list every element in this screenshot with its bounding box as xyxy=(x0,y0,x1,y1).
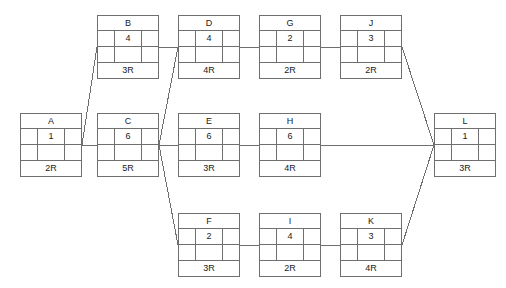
node-duration-row: 3R xyxy=(98,63,158,78)
node-blank-row xyxy=(98,145,158,161)
node-value-cell-center: 1 xyxy=(37,129,65,144)
node-duration-label: 4R xyxy=(203,66,215,75)
node-g[interactable]: G22R xyxy=(259,15,321,79)
node-value-label: 4 xyxy=(206,34,211,43)
node-blank-cell-right xyxy=(223,47,239,62)
node-blank-cell-right xyxy=(385,47,401,62)
node-value-cell-left xyxy=(260,229,276,244)
node-blank-cell-left xyxy=(179,47,195,62)
node-blank-cell-right xyxy=(304,47,320,62)
node-value-label: 6 xyxy=(287,132,292,141)
node-value-label: 6 xyxy=(206,132,211,141)
node-value-cell-right xyxy=(385,31,401,46)
node-blank-cell-right xyxy=(304,145,320,160)
node-blank-cell-left xyxy=(98,47,114,62)
node-a[interactable]: A12R xyxy=(20,113,82,177)
node-value-label: 3 xyxy=(368,232,373,241)
node-h[interactable]: H64R xyxy=(259,113,321,177)
node-b[interactable]: B43R xyxy=(97,15,159,79)
node-name-label: D xyxy=(206,19,213,28)
node-blank-cell-right xyxy=(304,245,320,260)
node-value-cell-left xyxy=(179,229,195,244)
node-name-row: C xyxy=(98,114,158,129)
node-value-label: 6 xyxy=(125,132,130,141)
node-duration-label: 3R xyxy=(122,66,134,75)
node-name-label: F xyxy=(206,217,212,226)
node-value-row: 3 xyxy=(341,229,401,245)
node-value-cell-left xyxy=(435,129,451,144)
node-name-label: I xyxy=(289,217,292,226)
node-duration-label: 4R xyxy=(365,264,377,273)
node-blank-row xyxy=(435,145,495,161)
node-blank-cell-left xyxy=(98,145,114,160)
node-j[interactable]: J32R xyxy=(340,15,402,79)
node-value-cell-left xyxy=(260,31,276,46)
node-value-label: 2 xyxy=(287,34,292,43)
node-duration-row: 5R xyxy=(98,161,158,176)
node-value-cell-center: 1 xyxy=(451,129,479,144)
node-name-row: J xyxy=(341,16,401,31)
node-value-cell-left xyxy=(21,129,37,144)
node-l[interactable]: L13R xyxy=(434,113,496,177)
node-duration-label: 3R xyxy=(459,164,471,173)
node-duration-label: 3R xyxy=(203,264,215,273)
node-blank-row xyxy=(341,245,401,261)
node-duration-label: 3R xyxy=(203,164,215,173)
node-c[interactable]: C65R xyxy=(97,113,159,177)
node-blank-row xyxy=(341,47,401,63)
node-blank-row xyxy=(260,145,320,161)
node-blank-cell-left xyxy=(260,245,276,260)
node-name-row: G xyxy=(260,16,320,31)
node-blank-cell-right xyxy=(223,145,239,160)
node-blank-cell-center xyxy=(276,245,304,260)
node-value-label: 3 xyxy=(368,34,373,43)
node-name-row: K xyxy=(341,214,401,229)
node-value-cell-left xyxy=(98,129,114,144)
node-value-cell-center: 6 xyxy=(276,129,304,144)
edge-c-to-f xyxy=(159,145,178,245)
node-name-row: F xyxy=(179,214,239,229)
node-blank-row xyxy=(98,47,158,63)
node-value-cell-right xyxy=(142,31,158,46)
node-duration-label: 2R xyxy=(284,264,296,273)
node-value-label: 4 xyxy=(287,232,292,241)
node-name-row: L xyxy=(435,114,495,129)
node-name-row: I xyxy=(260,214,320,229)
node-value-cell-right xyxy=(223,129,239,144)
node-blank-cell-left xyxy=(435,145,451,160)
node-name-label: H xyxy=(287,117,294,126)
node-value-row: 3 xyxy=(341,31,401,47)
node-value-label: 1 xyxy=(48,132,53,141)
node-duration-row: 2R xyxy=(260,261,320,276)
node-value-cell-center: 4 xyxy=(276,229,304,244)
node-duration-row: 4R xyxy=(341,261,401,276)
node-value-row: 6 xyxy=(260,129,320,145)
node-blank-cell-left xyxy=(341,245,357,260)
node-duration-row: 2R xyxy=(260,63,320,78)
node-blank-row xyxy=(179,245,239,261)
node-value-row: 1 xyxy=(435,129,495,145)
node-name-row: D xyxy=(179,16,239,31)
node-duration-label: 2R xyxy=(365,66,377,75)
node-f[interactable]: F23R xyxy=(178,213,240,277)
node-value-cell-right xyxy=(223,31,239,46)
node-value-row: 2 xyxy=(260,31,320,47)
node-d[interactable]: D44R xyxy=(178,15,240,79)
edge-k-to-l xyxy=(402,145,434,245)
node-blank-row xyxy=(260,47,320,63)
node-duration-label: 4R xyxy=(284,164,296,173)
node-value-cell-right xyxy=(142,129,158,144)
node-name-label: A xyxy=(48,117,54,126)
node-value-cell-left xyxy=(179,129,195,144)
node-name-row: A xyxy=(21,114,81,129)
node-value-cell-center: 4 xyxy=(114,31,142,46)
node-blank-cell-left xyxy=(260,47,276,62)
node-e[interactable]: E63R xyxy=(178,113,240,177)
node-blank-cell-center xyxy=(195,47,223,62)
node-name-row: B xyxy=(98,16,158,31)
node-k[interactable]: K34R xyxy=(340,213,402,277)
node-i[interactable]: I42R xyxy=(259,213,321,277)
node-value-cell-center: 6 xyxy=(114,129,142,144)
node-value-row: 4 xyxy=(260,229,320,245)
node-blank-cell-left xyxy=(341,47,357,62)
